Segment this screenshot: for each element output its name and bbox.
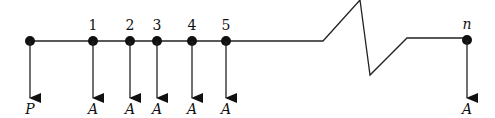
- flow-label: A: [150, 101, 162, 117]
- period-label: 3: [153, 17, 162, 33]
- flow-label: A: [86, 101, 98, 117]
- node-5: 5 A: [219, 17, 231, 117]
- node-1: 1 A: [86, 17, 98, 117]
- flow-label: A: [185, 101, 197, 117]
- node-n: n A: [460, 16, 472, 117]
- period-label: n: [462, 16, 471, 32]
- flow-label: A: [460, 101, 472, 117]
- period-label: 5: [222, 17, 231, 33]
- node-4: 4 A: [185, 17, 197, 117]
- node-2: 2 A: [123, 17, 135, 117]
- flow-label: P: [24, 101, 35, 117]
- period-label: 4: [188, 17, 197, 33]
- flow-label: A: [219, 101, 231, 117]
- period-label: 1: [89, 17, 98, 33]
- cash-flow-diagram: P 1 A 2 A 3 A 4 A 5 A n A: [0, 0, 495, 118]
- flow-label: A: [123, 101, 135, 117]
- node-0: P: [24, 36, 35, 117]
- period-label: 2: [126, 17, 135, 33]
- node-3: 3 A: [150, 17, 162, 117]
